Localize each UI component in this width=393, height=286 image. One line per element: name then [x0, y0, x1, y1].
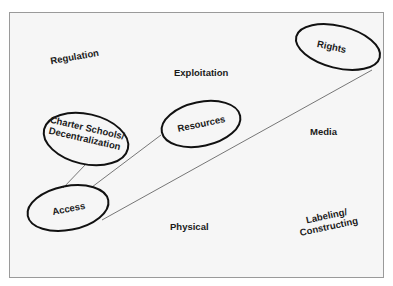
- edge-rights-access: [102, 70, 372, 220]
- label-exploitation: Exploitation: [174, 67, 228, 78]
- label-physical: Physical: [170, 221, 209, 232]
- label-media: Media: [310, 126, 337, 137]
